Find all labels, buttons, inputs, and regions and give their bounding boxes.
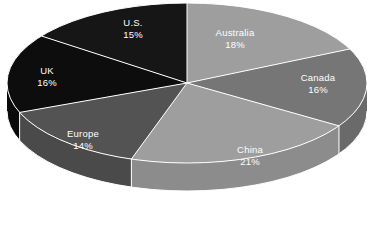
pie-chart: Australia18%Canada16%China21%Europe14%UK… <box>0 0 371 231</box>
pie-chart-canvas <box>0 0 371 231</box>
